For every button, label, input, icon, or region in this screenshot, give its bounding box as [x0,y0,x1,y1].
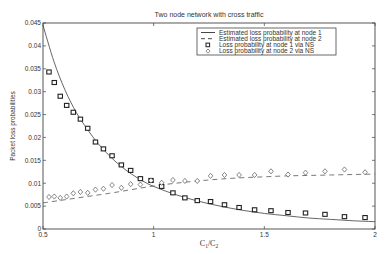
square-marker [101,147,105,151]
square-marker [208,200,212,204]
square-marker [52,81,56,85]
square-marker [86,126,90,130]
diamond-marker [342,167,347,172]
y-tick-label: 0.025 [25,111,42,118]
series-node2-estimated-line [43,174,375,203]
diamond-marker [119,185,124,190]
diamond-marker [64,194,69,199]
diamond-marker [78,189,83,194]
y-tick-label: 0.035 [25,65,42,72]
square-marker [64,103,68,107]
square-marker [110,154,114,158]
legend-entry: Loss probability at node 2 via NS [206,47,315,55]
y-tick-label: 0.04 [28,42,41,49]
x-tick-label: 1 [152,231,156,238]
square-marker [342,215,346,219]
diamond-marker [110,182,115,187]
diamond-marker [58,195,63,200]
diamond-marker [85,190,90,195]
x-tick-label: 2 [373,231,377,238]
legend: Estimated loss probability at node 1Esti… [197,28,336,55]
diamond-marker [52,194,57,199]
x-tick-label: 1.5 [260,231,269,238]
diamond-marker [208,173,213,178]
y-tick-label: 0.045 [25,19,42,26]
diamond-marker [128,182,133,187]
square-marker [138,177,142,181]
square-marker [237,205,241,209]
diamond-marker [171,177,176,182]
diamond-marker [138,182,143,187]
square-marker [252,208,256,212]
y-tick-label: 0.015 [25,157,42,164]
square-marker [183,196,187,200]
diamond-marker [93,187,98,192]
y-tick-label: 0.02 [28,134,41,141]
x-tick-label: 0.5 [38,231,47,238]
diamond-marker [101,186,106,191]
y-axis-label: Packet loss probabilities [9,90,17,160]
square-marker [171,191,175,195]
diamond-marker [237,172,242,177]
square-marker [303,211,307,215]
legend-label: Loss probability at node 2 via NS [219,47,315,55]
diamond-marker [303,170,308,175]
square-marker [269,209,273,213]
diamond-marker [323,169,328,174]
x-axis-label: C1/C2 [200,239,219,249]
square-marker [128,168,132,172]
chart: Two node network with cross traffic Pack… [0,0,387,254]
y-tick-label: 0.01 [28,180,41,187]
square-marker [78,117,82,121]
diamond-marker [47,194,52,199]
diamond-marker [195,178,200,183]
square-marker [71,110,75,114]
square-marker [363,216,367,220]
legend-square-icon [206,43,210,47]
square-marker [93,140,97,144]
y-tick-label: 0.03 [28,88,41,95]
square-marker [286,211,290,215]
diamond-marker [71,191,76,196]
square-marker [222,203,226,207]
diamond-marker [269,169,274,174]
diamond-marker [252,172,257,177]
square-marker [47,70,51,74]
y-tick-label: 0.005 [25,202,42,209]
diamond-marker [183,178,188,183]
square-marker [58,94,62,98]
diamond-marker [286,172,291,177]
chart-title: Two node network with cross traffic [155,11,264,18]
chart-canvas: Two node network with cross traffic Pack… [0,0,387,254]
square-marker [195,199,199,203]
diamond-marker [222,172,227,177]
square-marker [119,163,123,167]
square-marker [323,212,327,216]
